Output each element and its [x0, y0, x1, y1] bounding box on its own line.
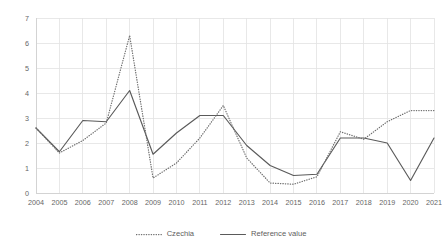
line-chart: 01234567 2004200520062007200820092010201… [0, 0, 442, 244]
legend-item-reference-value: Reference value [220, 230, 306, 238]
x-tick-label: 2007 [98, 198, 114, 207]
x-axis-tick-labels: 2004200520062007200820092010201120122013… [28, 198, 442, 207]
y-tick-label: 7 [25, 14, 29, 23]
x-tick-label: 2004 [28, 198, 44, 207]
x-tick-label: 2018 [356, 198, 372, 207]
chart-legend: Czechia Reference value [0, 230, 442, 238]
chart-canvas: 01234567 2004200520062007200820092010201… [0, 0, 442, 244]
y-axis-tick-labels: 01234567 [25, 14, 29, 198]
series-lines [36, 36, 434, 185]
x-tick-label: 2014 [262, 198, 278, 207]
x-tick-label: 2012 [215, 198, 231, 207]
y-tick-label: 4 [25, 89, 29, 98]
legend-item-czechia: Czechia [136, 230, 194, 238]
legend-label-czechia: Czechia [167, 230, 194, 238]
x-tick-label: 2013 [239, 198, 255, 207]
y-tick-label: 0 [25, 189, 29, 198]
axis-lines [36, 18, 434, 193]
legend-swatch-dotted-icon [136, 231, 162, 238]
y-tick-label: 1 [25, 164, 29, 173]
x-tick-label: 2009 [145, 198, 161, 207]
x-tick-label: 2005 [51, 198, 67, 207]
x-tick-label: 2011 [192, 198, 207, 207]
x-gridlines [36, 18, 434, 193]
x-tick-label: 2006 [75, 198, 91, 207]
y-tick-label: 6 [25, 39, 29, 48]
x-tick-label: 2016 [309, 198, 325, 207]
x-tick-label: 2008 [122, 198, 138, 207]
x-tick-label: 2017 [332, 198, 348, 207]
series-line-czechia [36, 36, 434, 185]
legend-swatch-solid-icon [220, 231, 246, 238]
y-tick-label: 2 [25, 139, 29, 148]
x-tick-label: 2020 [403, 198, 419, 207]
x-tick-label: 2019 [379, 198, 395, 207]
series-line-reference-value [36, 91, 434, 181]
y-gridlines [36, 18, 434, 193]
plot-area: 01234567 2004200520062007200820092010201… [0, 0, 442, 244]
x-tick-label: 2010 [168, 198, 184, 207]
x-tick-label: 2021 [426, 198, 442, 207]
y-tick-label: 5 [25, 64, 29, 73]
legend-label-reference-value: Reference value [251, 230, 306, 238]
y-tick-label: 3 [25, 114, 29, 123]
x-tick-label: 2015 [286, 198, 302, 207]
